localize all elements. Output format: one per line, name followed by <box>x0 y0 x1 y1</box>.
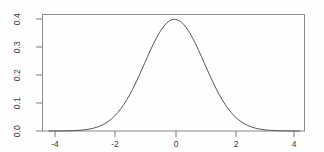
y-axis-ticks <box>36 19 42 131</box>
y-tick-label-0: 0.0 <box>13 120 22 142</box>
x-tick-label-1: -2 <box>107 140 123 149</box>
plot-box-border <box>43 15 305 132</box>
x-axis-ticks <box>55 131 294 137</box>
x-tick-label-2: 0 <box>168 140 184 149</box>
y-tick-label-1: 0.1 <box>13 92 22 114</box>
x-tick-label-4: 4 <box>286 140 302 149</box>
plot-canvas <box>0 0 324 152</box>
x-tick-label-3: 2 <box>228 140 244 149</box>
x-tick-label-0: -4 <box>47 140 63 149</box>
y-tick-label-3: 0.3 <box>13 36 22 58</box>
normal-density-chart: 0.0 0.1 0.2 0.3 0.4 -4 -2 0 2 4 <box>0 0 324 152</box>
y-tick-label-4: 0.4 <box>13 8 22 30</box>
density-curve <box>49 19 300 131</box>
y-tick-label-2: 0.2 <box>13 64 22 86</box>
